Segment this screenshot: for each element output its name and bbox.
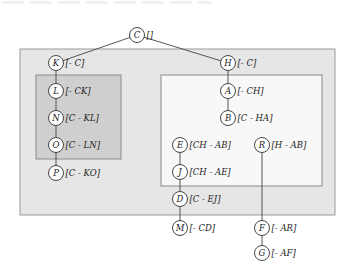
node-F: F[- AR]: [255, 221, 297, 236]
node-C: C[]: [130, 28, 154, 43]
node-label: G: [259, 248, 266, 258]
node-set-label: [- C]: [66, 58, 85, 68]
tree-diagram: C[]K[- C]L[- CK]N[C - KL]O[C - LN]P[C - …: [0, 0, 352, 278]
node-label: O: [53, 140, 60, 150]
node-set-label: [C - KL]: [66, 113, 100, 123]
node-set-label: [- AR]: [272, 223, 297, 233]
node-label: C: [134, 30, 141, 40]
node-set-label: [- C]: [238, 58, 257, 68]
node-label: B: [224, 113, 231, 123]
node-set-label: [- CK]: [66, 86, 92, 96]
node-set-label: [- CD]: [190, 223, 216, 233]
node-set-label: [CH - AB]: [190, 140, 232, 150]
node-set-label: [C - KO]: [66, 168, 101, 178]
node-set-label: [CH - AE]: [190, 167, 232, 177]
node-label: D: [176, 194, 184, 204]
node-label: F: [258, 223, 266, 233]
node-label: E: [176, 140, 184, 150]
node-label: K: [52, 58, 60, 68]
node-label: N: [51, 113, 60, 123]
node-label: P: [52, 168, 59, 178]
node-M: M[- CD]: [173, 221, 216, 236]
cluster-boxes: [20, 49, 335, 215]
node-set-label: []: [147, 30, 154, 40]
node-label: H: [223, 58, 232, 68]
node-set-label: [C - EJ]: [190, 194, 222, 204]
node-set-label: [- CH]: [238, 86, 265, 96]
node-label: R: [258, 140, 266, 150]
node-label: M: [175, 223, 185, 233]
node-set-label: [- AF]: [272, 248, 297, 258]
node-set-label: [C - LN]: [66, 140, 101, 150]
node-G: G[- AF]: [255, 246, 297, 261]
node-label: A: [224, 86, 231, 96]
node-label: L: [52, 86, 59, 96]
node-set-label: [C - HA]: [238, 113, 274, 123]
node-set-label: [H - AB]: [272, 140, 307, 150]
